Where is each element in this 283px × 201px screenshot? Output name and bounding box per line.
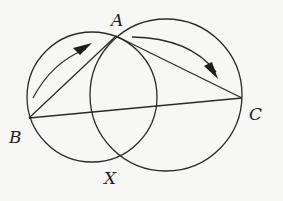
segment-BC — [29, 98, 242, 118]
label-C: C — [249, 104, 262, 124]
segment-BA — [29, 36, 116, 118]
label-B: B — [8, 127, 22, 147]
left-circle — [27, 32, 157, 162]
arrow-a-c-curve — [132, 37, 216, 72]
arrow-A-to-C — [132, 37, 218, 79]
arrow-head-icon — [204, 62, 218, 79]
right-circle — [90, 19, 242, 171]
label-A: A — [109, 10, 123, 30]
label-X: X — [102, 168, 117, 188]
geometry-diagram: A B C X — [0, 0, 283, 201]
arrow-B-to-A — [33, 43, 92, 98]
